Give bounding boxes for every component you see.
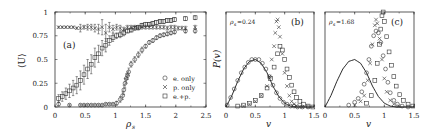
cross-marker-icon bbox=[60, 25, 64, 29]
circle-marker-icon bbox=[356, 97, 360, 101]
panel-b-xlabel: v bbox=[266, 119, 271, 129]
y-tick-label: 0.5 bbox=[37, 56, 48, 64]
cross-marker-icon bbox=[163, 85, 167, 89]
cross-marker-icon bbox=[383, 77, 387, 81]
legend-label: e. only bbox=[173, 75, 195, 83]
figure: 00.511.522.500.250.50.751 (a) s ρ s ⟨U⟩ … bbox=[0, 0, 432, 133]
circle-marker-icon bbox=[395, 102, 399, 106]
cross-marker-icon bbox=[275, 20, 279, 24]
reference-curve bbox=[226, 60, 314, 108]
legend: e. only p. only e.+p. bbox=[163, 75, 196, 101]
cross-marker-icon bbox=[272, 44, 276, 48]
cross-marker-icon bbox=[285, 84, 289, 88]
x-tick-label: 0 bbox=[323, 112, 327, 120]
circle-marker-icon bbox=[369, 44, 373, 48]
panel-c-label: (c) bbox=[391, 17, 403, 27]
cross-marker-icon bbox=[385, 90, 389, 94]
panel-a-xlabel-sub: s bbox=[132, 123, 135, 130]
cross-marker-icon bbox=[359, 100, 363, 104]
x-tick-label: 1 bbox=[382, 112, 386, 120]
cross-marker-icon bbox=[292, 102, 296, 106]
square-marker-icon bbox=[278, 44, 282, 48]
cross-marker-icon bbox=[277, 25, 281, 29]
circle-marker-icon bbox=[367, 58, 371, 62]
square-marker-icon bbox=[265, 86, 269, 90]
circle-marker-icon bbox=[163, 76, 167, 80]
square-marker-icon bbox=[283, 58, 287, 62]
square-marker-icon bbox=[290, 83, 294, 87]
panel-a-label: (a) bbox=[63, 40, 75, 50]
panel-b-annotation: ρ s =0.24 bbox=[229, 18, 256, 27]
cross-marker-icon bbox=[71, 25, 75, 29]
panel-b-data bbox=[225, 18, 314, 109]
cross-marker-icon bbox=[290, 100, 294, 104]
annotation-value: =0.24 bbox=[237, 18, 256, 25]
x-tick-label: 0 bbox=[224, 112, 228, 120]
square-marker-icon bbox=[295, 96, 299, 100]
circle-marker-icon bbox=[362, 82, 366, 86]
cross-marker-icon bbox=[57, 25, 61, 29]
x-tick-label: 1.5 bbox=[140, 112, 151, 120]
circle-marker-icon bbox=[360, 90, 364, 94]
panel-c-ticks: 00.511.5 bbox=[323, 12, 420, 120]
cross-marker-icon bbox=[374, 18, 378, 22]
panel-a-xlabel-rho: ρ bbox=[125, 119, 132, 129]
panel-c-xlabel: v bbox=[366, 119, 371, 129]
x-tick-label: 1.5 bbox=[408, 112, 419, 120]
x-tick-label: 0.5 bbox=[80, 112, 91, 120]
square-marker-icon bbox=[292, 90, 296, 94]
cross-marker-icon bbox=[288, 94, 292, 98]
square-marker-icon bbox=[272, 65, 276, 69]
circle-marker-icon bbox=[347, 103, 351, 107]
square-marker-icon bbox=[276, 52, 280, 56]
square-marker-icon bbox=[287, 76, 291, 80]
panel-a: 00.511.522.500.250.50.751 (a) s ρ s ⟨U⟩ … bbox=[17, 9, 212, 131]
panel-a-ylabel: ⟨U⟩ bbox=[17, 53, 27, 68]
circle-marker-icon bbox=[381, 54, 385, 58]
circle-marker-icon bbox=[386, 80, 390, 84]
x-tick-label: 0.5 bbox=[250, 112, 261, 120]
annotation-value: =1.68 bbox=[336, 18, 355, 25]
square-marker-icon bbox=[401, 98, 405, 102]
cross-marker-icon bbox=[273, 31, 277, 35]
cross-marker-icon bbox=[373, 24, 377, 28]
legend-label: e.+p. bbox=[173, 93, 191, 101]
square-marker-icon bbox=[375, 61, 379, 65]
cross-marker-icon bbox=[248, 102, 252, 106]
square-marker-icon bbox=[398, 93, 402, 97]
reference-curve bbox=[325, 60, 414, 108]
square-marker-icon bbox=[373, 79, 377, 83]
legend-item-e-only: e. only bbox=[163, 75, 195, 83]
cross-marker-icon bbox=[375, 22, 379, 26]
cross-marker-icon bbox=[368, 62, 372, 66]
legend-item-p-only: p. only bbox=[163, 84, 195, 92]
panel-b-ylabel: P(v) bbox=[212, 49, 222, 69]
cross-marker-icon bbox=[68, 25, 72, 29]
x-tick-label: 2 bbox=[174, 112, 178, 120]
panel-b-label: (b) bbox=[291, 17, 304, 27]
x-tick-label: 0 bbox=[53, 112, 57, 120]
cross-marker-icon bbox=[278, 35, 282, 39]
panel-a-ticks: 00.511.522.500.250.50.751 bbox=[32, 9, 211, 121]
panel-b: 00.511.5 (b) ρ s =0.24 v P(v) bbox=[212, 12, 320, 129]
panel-c-annotation: ρ s =1.68 bbox=[328, 18, 355, 27]
cross-marker-icon bbox=[259, 94, 263, 98]
cross-marker-icon bbox=[254, 100, 258, 104]
x-tick-label: 1 bbox=[113, 112, 117, 120]
square-marker-icon bbox=[379, 27, 383, 31]
y-tick-label: 0.25 bbox=[32, 80, 48, 88]
x-tick-label: 2.5 bbox=[200, 112, 211, 120]
x-tick-label: 0.5 bbox=[349, 112, 360, 120]
square-marker-icon bbox=[369, 94, 373, 98]
legend-item-e-plus-p: e.+p. bbox=[163, 93, 191, 101]
x-tick-label: 1.5 bbox=[308, 112, 319, 120]
cross-marker-icon bbox=[380, 58, 384, 62]
cross-marker-icon bbox=[75, 26, 79, 30]
square-marker-icon bbox=[280, 48, 284, 52]
square-marker-icon bbox=[394, 84, 398, 88]
cross-marker-icon bbox=[64, 25, 68, 29]
square-marker-icon bbox=[385, 35, 389, 39]
cross-marker-icon bbox=[281, 52, 285, 56]
y-tick-label: 0.75 bbox=[32, 32, 48, 40]
cross-marker-icon bbox=[388, 99, 392, 103]
